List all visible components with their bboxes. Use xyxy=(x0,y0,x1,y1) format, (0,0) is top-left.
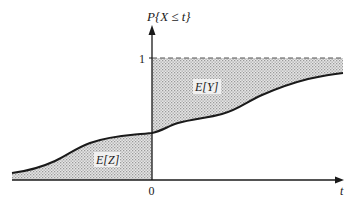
region-ey-label: E[Y] xyxy=(194,80,219,94)
probability-axis-arrowhead-icon xyxy=(149,25,156,35)
origin-label: 0 xyxy=(149,184,155,198)
region-ez-label: E[Z] xyxy=(95,153,120,167)
level-one-label: 1 xyxy=(139,52,145,66)
t-axis-arrowhead-icon xyxy=(335,177,344,184)
region-ez-shading xyxy=(12,133,152,180)
y-axis-label: P{X ≤ t} xyxy=(146,9,191,24)
x-axis-label: t xyxy=(340,184,344,198)
cdf-expectation-diagram: P{X ≤ t} 1 0 t E[Y] E[Z] xyxy=(0,0,356,200)
